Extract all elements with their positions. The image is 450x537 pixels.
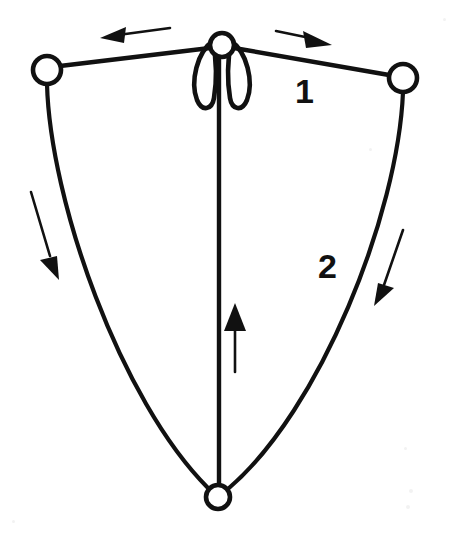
arrow-center-up-head <box>224 303 246 331</box>
arc-left-sweep <box>47 84 208 488</box>
arrow-top-right <box>276 31 332 48</box>
node-right <box>389 64 417 92</box>
arrow-right-down <box>374 230 403 306</box>
segments-group <box>47 48 403 488</box>
arrow-center-up <box>224 303 246 372</box>
node-pivot-top <box>210 33 234 57</box>
node-bottom <box>206 485 230 509</box>
arrow-left-down <box>31 192 59 280</box>
link-top-left <box>60 48 210 66</box>
nodes-group <box>33 33 417 509</box>
figure-canvas: 1 2 <box>0 0 450 537</box>
arrow-top-left <box>100 27 170 43</box>
arrow-left-down-shaft <box>31 192 50 256</box>
arrow-right-down-shaft <box>384 230 403 285</box>
label-1: 1 <box>295 72 314 110</box>
arrow-top-left-head <box>100 27 126 43</box>
link-top-right <box>234 48 389 75</box>
labels-group: 1 2 <box>295 72 337 285</box>
arrow-right-down-head <box>374 283 394 306</box>
arrow-left-down-head <box>40 256 59 280</box>
arrow-top-right-head <box>303 31 332 48</box>
node-left <box>33 56 61 84</box>
label-2: 2 <box>318 247 337 285</box>
linkage-diagram-svg: 1 2 <box>0 0 450 537</box>
arrow-top-left-shaft <box>118 28 170 35</box>
